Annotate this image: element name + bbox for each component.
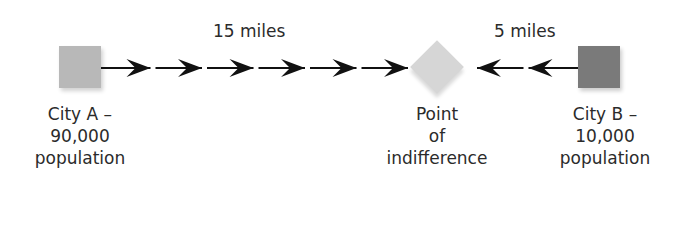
point-label-line: of bbox=[377, 125, 497, 147]
city-b-label-line: City B – bbox=[545, 103, 665, 125]
arrows-city-a-to-point bbox=[101, 59, 408, 77]
point-of-indifference-label: Point of indifference bbox=[377, 103, 497, 169]
city-a-label-line: 90,000 bbox=[20, 125, 140, 147]
arrows-city-b-to-point bbox=[477, 59, 578, 77]
point-label-line: indifference bbox=[377, 147, 497, 169]
point-label-line: Point bbox=[377, 103, 497, 125]
city-a-label: City A – 90,000 population bbox=[20, 103, 140, 169]
city-a-label-line: City A – bbox=[20, 103, 140, 125]
city-b-label-line: 10,000 bbox=[545, 125, 665, 147]
city-b-label: City B – 10,000 population bbox=[545, 103, 665, 169]
city-a-label-line: population bbox=[20, 147, 140, 169]
city-b-label-line: population bbox=[545, 147, 665, 169]
